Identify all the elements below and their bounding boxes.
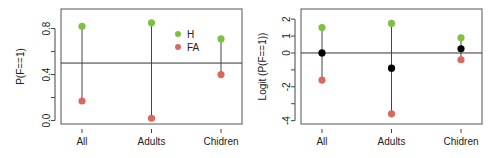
y-tick-label: 0.4 (42, 67, 53, 81)
point-h (217, 35, 224, 42)
y-tick-label: 0.8 (42, 21, 53, 35)
legend-marker (175, 44, 181, 50)
panel-logit: 20-2-41Logit (P(F==1))AllAdultsChidren (257, 9, 483, 147)
y-tick-label: 0.0 (42, 113, 53, 127)
x-tick-label: Chidren (203, 136, 238, 147)
point-h (457, 34, 464, 41)
y-tick-label: 2 (282, 16, 293, 22)
point-h (78, 23, 85, 30)
y-tick-label: 1 (282, 33, 293, 39)
y-tick-label: 0 (282, 50, 293, 56)
y-axis-label: Logit (P(F==1)) (257, 33, 268, 101)
point-fa (388, 110, 395, 117)
point-fa (148, 115, 155, 122)
panel-probability: 0.00.40.8P(F==1)AllAdultsChidrenHFA (15, 9, 243, 147)
point-fa (217, 71, 224, 78)
point-mean (318, 49, 325, 56)
point-fa (457, 56, 464, 63)
y-tick-label: -4 (282, 116, 293, 125)
y-tick-label: -2 (282, 82, 293, 91)
point-mean (388, 65, 395, 72)
x-tick-label: All (76, 136, 87, 147)
point-h (388, 20, 395, 27)
legend-label: H (187, 29, 194, 40)
legend-marker (175, 31, 181, 37)
x-tick-label: Adults (138, 136, 166, 147)
legend-label: FA (187, 42, 200, 53)
point-fa (78, 97, 85, 104)
x-tick-label: Adults (378, 136, 406, 147)
y-axis-label: P(F==1) (15, 48, 26, 85)
point-fa (318, 76, 325, 83)
x-tick-label: All (316, 136, 327, 147)
point-h (148, 19, 155, 26)
chart-figure: 0.00.40.8P(F==1)AllAdultsChidrenHFA 20-2… (0, 0, 491, 158)
point-h (318, 24, 325, 31)
x-tick-label: Chidren (443, 136, 478, 147)
point-mean (457, 45, 464, 52)
